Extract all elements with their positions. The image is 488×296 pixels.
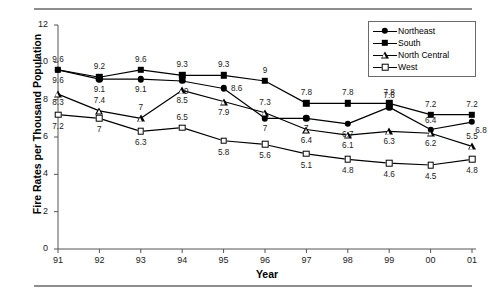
data-point-label: 9.1: [94, 85, 105, 94]
data-point-marker: [54, 91, 62, 98]
x-tick-label: 01: [459, 255, 485, 265]
data-point-marker: [220, 72, 226, 78]
data-point-label: 4.5: [425, 172, 436, 181]
data-point-label: 9.6: [52, 55, 63, 64]
data-point-marker: [138, 67, 144, 73]
legend: NortheastSouthNorth CentralWest: [368, 21, 476, 77]
data-point-label: 6.1: [342, 141, 353, 150]
filled-square-icon: [372, 37, 398, 49]
data-point-marker: [303, 115, 309, 121]
x-tick-label: 97: [293, 255, 319, 265]
y-tick-label: 12: [26, 19, 48, 29]
data-point-label: 7: [139, 103, 144, 112]
data-point-label: 7.2: [466, 100, 477, 109]
data-point-label: 8.6: [231, 84, 242, 93]
data-point-marker: [96, 74, 102, 80]
y-tick-label: 10: [26, 56, 48, 66]
data-point-label: 7.8: [301, 88, 312, 97]
legend-item-label: Northeast: [398, 25, 435, 37]
data-point-marker: [220, 98, 228, 105]
data-point-label: 7.2: [52, 122, 63, 131]
data-point-label: 7.4: [94, 96, 105, 105]
data-point-marker: [386, 160, 393, 167]
data-point-label: 4.6: [383, 170, 394, 179]
data-point-label: 7.2: [425, 100, 436, 109]
data-point-label: 6.3: [383, 137, 394, 146]
data-point-label: 7.9: [218, 108, 229, 117]
data-point-marker: [469, 111, 475, 117]
filled-circle-icon: [372, 25, 398, 37]
data-point-marker: [55, 67, 61, 73]
y-tick-label: 6: [26, 131, 48, 141]
data-point-marker: [303, 151, 310, 158]
x-tick-label: 99: [376, 255, 402, 265]
data-point-marker: [95, 107, 103, 114]
data-point-marker: [468, 143, 476, 150]
data-point-label: 9.2: [94, 62, 105, 71]
data-point-marker: [345, 121, 351, 127]
x-tick-label: 93: [128, 255, 154, 265]
legend-item-west[interactable]: West: [372, 61, 471, 73]
data-point-marker: [386, 100, 392, 106]
x-tick-label: 91: [45, 255, 71, 265]
data-point-label: 7.8: [383, 88, 394, 97]
y-tick-label: 0: [26, 243, 48, 253]
data-point-label: 8.3: [52, 98, 63, 107]
data-point-label: 9.3: [176, 60, 187, 69]
data-point-label: 6.7: [342, 130, 353, 139]
data-point-label: 6.3: [135, 138, 146, 147]
data-point-marker: [385, 128, 393, 135]
data-point-marker: [138, 128, 145, 135]
y-tick-label: 4: [26, 168, 48, 178]
open-triangle-icon: [372, 49, 398, 61]
data-point-label: 9.6: [52, 76, 63, 85]
chart-figure: Fire Rates per Thousand Population Year …: [0, 0, 488, 296]
data-point-marker: [427, 162, 434, 169]
data-point-label: 6.4: [425, 116, 436, 125]
data-point-label: 5.6: [259, 151, 270, 160]
data-point-marker: [262, 78, 268, 84]
data-point-label: 8.5: [176, 96, 187, 105]
open-square-icon: [372, 61, 398, 73]
data-point-label: 7.3: [259, 98, 270, 107]
legend-item-label: South: [398, 37, 420, 49]
data-point-marker: [262, 141, 269, 148]
data-point-label: 7: [97, 125, 102, 134]
legend-item-north-central[interactable]: North Central: [372, 49, 471, 61]
data-point-label: 6.5: [176, 113, 187, 122]
data-point-label: 4.8: [466, 166, 477, 175]
data-point-label: 9: [184, 87, 189, 96]
legend-item-label: West: [398, 61, 417, 73]
legend-item-northeast[interactable]: Northeast: [372, 25, 471, 37]
y-tick-label: 2: [26, 206, 48, 216]
data-point-marker: [220, 137, 227, 144]
data-point-marker: [55, 111, 62, 118]
data-point-marker: [469, 156, 476, 163]
data-point-marker: [137, 115, 145, 122]
data-point-marker: [179, 124, 186, 131]
data-point-label: 5.8: [218, 148, 229, 157]
data-point-label: 5.5: [466, 132, 477, 141]
data-point-label: 9: [263, 66, 268, 75]
data-point-marker: [138, 76, 144, 82]
data-point-label: 7: [304, 124, 309, 133]
data-point-label: 5.1: [301, 161, 312, 170]
data-point-marker: [179, 72, 185, 78]
legend-item-label: North Central: [398, 49, 449, 61]
data-point-marker: [179, 78, 185, 84]
y-tick-label: 8: [26, 94, 48, 104]
legend-item-south[interactable]: South: [372, 37, 471, 49]
data-point-label: 6.4: [301, 136, 312, 145]
x-tick-label: 96: [252, 255, 278, 265]
data-point-marker: [427, 130, 435, 137]
data-point-marker: [261, 109, 269, 116]
data-point-label: 4.8: [342, 166, 353, 175]
data-point-label: 6.2: [425, 139, 436, 148]
x-tick-label: 94: [169, 255, 195, 265]
x-tick-label: 95: [211, 255, 237, 265]
data-point-marker: [345, 156, 352, 163]
x-tick-label: 00: [418, 255, 444, 265]
data-point-marker: [220, 85, 226, 91]
x-tick-label: 92: [86, 255, 112, 265]
data-point-label: 7.8: [342, 88, 353, 97]
